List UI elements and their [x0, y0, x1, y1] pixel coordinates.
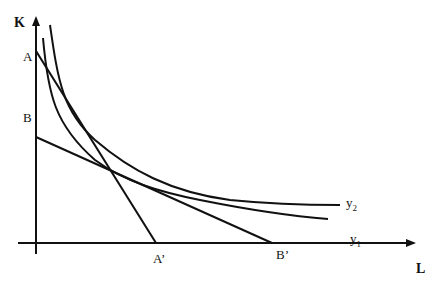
- diagram-canvas: [0, 0, 440, 282]
- point-a-prime-label: A’: [153, 252, 165, 265]
- isoquant-y1: [43, 38, 328, 219]
- isoquant-y2: [50, 25, 340, 205]
- isocost-line-b: [36, 137, 272, 243]
- point-b-label: B: [23, 111, 32, 124]
- isocost-line-a: [36, 51, 156, 243]
- isoquant-y2-label: y2: [346, 196, 357, 213]
- point-a-label: A: [23, 50, 32, 63]
- l-axis-label: L: [416, 262, 425, 276]
- point-b-prime-label: B’: [276, 248, 289, 261]
- k-axis-label: K: [14, 16, 25, 30]
- isoquant-y1-label: y1: [350, 232, 361, 249]
